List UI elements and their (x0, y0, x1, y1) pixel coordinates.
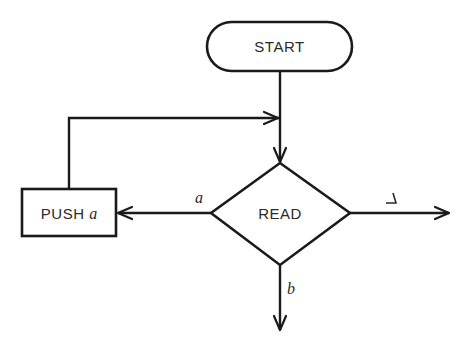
edge-read-to-bottom: b (274, 265, 295, 330)
push-label-text: PUSH (41, 205, 89, 222)
start-node: START (207, 22, 352, 71)
edge-read-to-push: a (118, 189, 211, 219)
edge-label-b: b (287, 280, 295, 297)
flowchart-diagram: START READ a PUSH a b (0, 0, 470, 342)
read-node: READ (211, 163, 350, 265)
edge-label-a: a (195, 189, 203, 206)
push-node: PUSH a (22, 189, 116, 236)
blank-symbol-icon (386, 193, 396, 203)
edge-loop-to-read (69, 112, 280, 189)
edge-read-to-right (350, 193, 449, 219)
read-label: READ (258, 205, 302, 222)
push-label-var: a (89, 205, 97, 222)
start-label: START (254, 38, 304, 55)
push-label: PUSH a (41, 205, 97, 222)
